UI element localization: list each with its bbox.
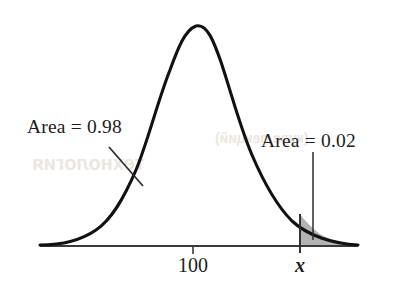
normal-curve-figure: технология (курс лекций) Area = 0.98 Are… xyxy=(0,0,394,291)
area-label-left: Area = 0.98 xyxy=(27,117,122,137)
axis-label-x: x xyxy=(295,255,305,275)
axis-label-100: 100 xyxy=(178,255,208,275)
area-label-right: Area = 0.02 xyxy=(261,131,356,151)
